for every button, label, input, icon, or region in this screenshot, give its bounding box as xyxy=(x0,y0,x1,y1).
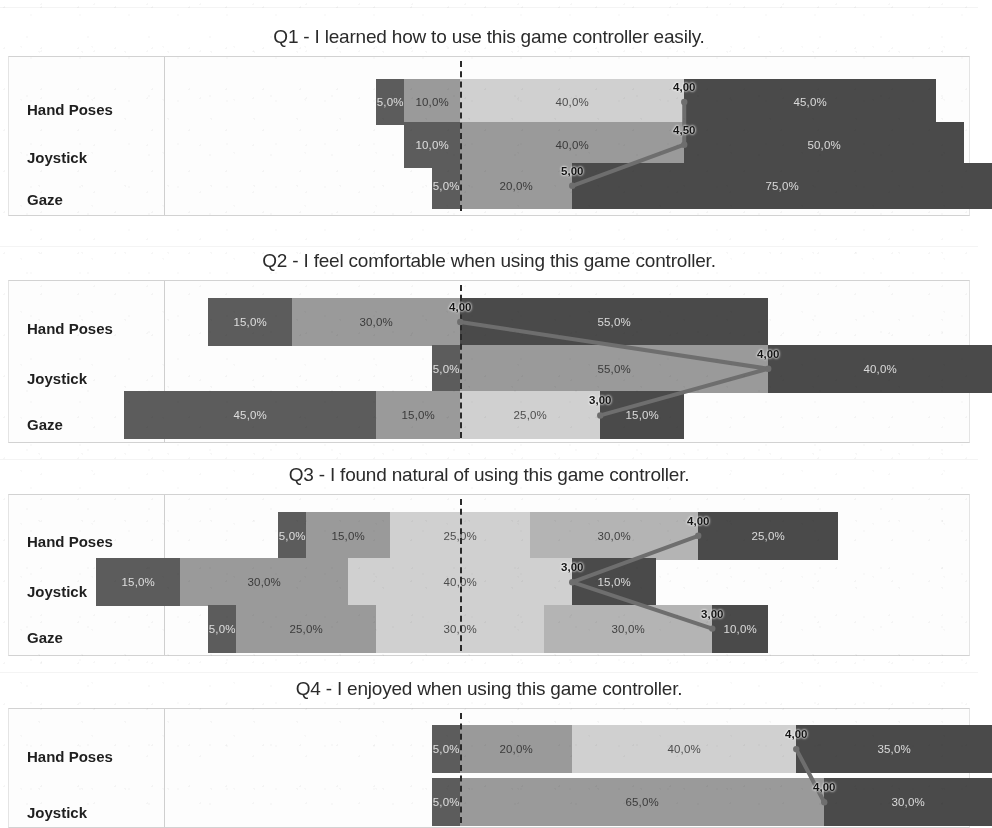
segment-percent-label: 30,0% xyxy=(359,316,393,328)
plot-area: 15,0%30,0%55,0%4,005,0%55,0%40,0%4,0045,… xyxy=(164,281,969,442)
segment-percent-label: 10,0% xyxy=(415,139,449,151)
bar-segment: 30,0% xyxy=(292,298,460,346)
median-value-label: 5,00 xyxy=(561,165,583,177)
category-label: Joystick xyxy=(27,148,87,165)
bar-row: 5,0%15,0%25,0%30,0%25,0% xyxy=(278,512,838,560)
category-label: Hand Poses xyxy=(27,533,113,550)
segment-percent-label: 25,0% xyxy=(289,623,323,635)
bar-segment: 15,0% xyxy=(376,391,460,439)
segment-percent-label: 30,0% xyxy=(611,623,645,635)
bar-segment: 55,0% xyxy=(460,345,768,393)
category-label: Hand Poses xyxy=(27,748,113,765)
bar-segment: 5,0% xyxy=(208,605,236,653)
category-label: Joystick xyxy=(27,803,87,820)
segment-percent-label: 25,0% xyxy=(513,409,547,421)
median-value-label: 4,00 xyxy=(673,81,695,93)
category-label: Gaze xyxy=(27,191,63,208)
segment-percent-label: 40,0% xyxy=(555,139,589,151)
segment-percent-label: 55,0% xyxy=(597,316,631,328)
bar-segment: 5,0% xyxy=(278,512,306,560)
bar-segment: 40,0% xyxy=(460,122,684,168)
bar-segment: 45,0% xyxy=(684,79,936,125)
bar-segment: 10,0% xyxy=(404,122,460,168)
segment-percent-label: 25,0% xyxy=(751,530,785,542)
segment-percent-label: 5,0% xyxy=(209,623,236,635)
plot-area: 5,0%15,0%25,0%30,0%25,0%4,0015,0%30,0%40… xyxy=(164,495,969,655)
segment-percent-label: 5,0% xyxy=(279,530,306,542)
scan-streak xyxy=(0,7,978,8)
median-value-label: 3,00 xyxy=(589,394,611,406)
chart-q3: Q3 - I found natural of using this game … xyxy=(0,464,978,656)
bar-segment: 55,0% xyxy=(460,298,768,346)
median-value-label: 4,00 xyxy=(757,348,779,360)
chart-title: Q4 - I enjoyed when using this game cont… xyxy=(0,678,978,700)
scan-streak xyxy=(0,459,978,460)
segment-percent-label: 30,0% xyxy=(891,796,925,808)
segment-percent-label: 15,0% xyxy=(597,576,631,588)
bar-segment: 25,0% xyxy=(236,605,376,653)
bar-segment: 50,0% xyxy=(684,122,964,168)
plot-area: 5,0%20,0%40,0%35,0%4,005,0%65,0%30,0%4,0… xyxy=(164,709,969,827)
segment-percent-label: 15,0% xyxy=(121,576,155,588)
bar-segment: 40,0% xyxy=(768,345,992,393)
category-label: Joystick xyxy=(27,583,87,600)
bar-segment: 30,0% xyxy=(530,512,698,560)
bar-segment: 25,0% xyxy=(460,391,600,439)
segment-percent-label: 5,0% xyxy=(433,743,460,755)
segment-percent-label: 20,0% xyxy=(499,743,533,755)
plot-frame: Hand Poses Joystick Gaze 5,0%15,0%25,0%3… xyxy=(8,494,970,656)
bar-segment: 5,0% xyxy=(432,163,460,209)
bar-row: 5,0%25,0%30,0%30,0%10,0% xyxy=(208,605,768,653)
category-label: Gaze xyxy=(27,629,63,646)
scan-streak xyxy=(0,246,978,247)
chart-q1: Q1 - I learned how to use this game cont… xyxy=(0,26,978,216)
category-label: Hand Poses xyxy=(27,101,113,118)
segment-percent-label: 5,0% xyxy=(377,96,404,108)
median-value-label: 4,00 xyxy=(449,301,471,313)
scan-streak xyxy=(0,672,978,673)
bar-segment: 40,0% xyxy=(460,79,684,125)
median-value-label: 4,00 xyxy=(813,781,835,793)
bar-segment: 30,0% xyxy=(824,778,992,826)
segment-percent-label: 5,0% xyxy=(433,180,460,192)
segment-percent-label: 55,0% xyxy=(597,363,631,375)
bar-segment: 20,0% xyxy=(460,163,572,209)
segment-percent-label: 40,0% xyxy=(555,96,589,108)
chart-title: Q3 - I found natural of using this game … xyxy=(0,464,978,486)
segment-percent-label: 40,0% xyxy=(667,743,701,755)
segment-percent-label: 65,0% xyxy=(625,796,659,808)
segment-percent-label: 30,0% xyxy=(247,576,281,588)
bar-segment: 15,0% xyxy=(208,298,292,346)
chart-q4: Q4 - I enjoyed when using this game cont… xyxy=(0,678,978,828)
category-label: Hand Poses xyxy=(27,319,113,336)
segment-percent-label: 30,0% xyxy=(597,530,631,542)
chart-title: Q2 - I feel comfortable when using this … xyxy=(0,250,978,272)
bar-row: 5,0%65,0%30,0% xyxy=(432,778,992,826)
bar-row: 5,0%20,0%75,0% xyxy=(432,163,992,209)
plot-area: 5,0%10,0%40,0%45,0%4,0010,0%40,0%50,0%4,… xyxy=(164,57,969,215)
segment-percent-label: 15,0% xyxy=(233,316,267,328)
bar-segment: 35,0% xyxy=(796,725,992,773)
median-value-label: 3,00 xyxy=(561,561,583,573)
plot-frame: Hand Poses Joystick Gaze 5,0%10,0%40,0%4… xyxy=(8,56,970,216)
bar-segment: 5,0% xyxy=(432,345,460,393)
segment-percent-label: 15,0% xyxy=(625,409,659,421)
bar-segment: 40,0% xyxy=(572,725,796,773)
bar-segment: 15,0% xyxy=(96,558,180,606)
bar-row: 15,0%30,0%55,0% xyxy=(208,298,768,346)
bar-segment: 45,0% xyxy=(124,391,376,439)
plot-frame: Hand Poses Joystick Gaze 15,0%30,0%55,0%… xyxy=(8,280,970,443)
segment-percent-label: 45,0% xyxy=(793,96,827,108)
segment-percent-label: 10,0% xyxy=(723,623,757,635)
bar-segment: 10,0% xyxy=(404,79,460,125)
bar-segment: 75,0% xyxy=(572,163,992,209)
segment-percent-label: 15,0% xyxy=(401,409,435,421)
segment-percent-label: 75,0% xyxy=(765,180,799,192)
segment-percent-label: 45,0% xyxy=(233,409,267,421)
bar-segment: 30,0% xyxy=(180,558,348,606)
segment-percent-label: 20,0% xyxy=(499,180,533,192)
chart-q2: Q2 - I feel comfortable when using this … xyxy=(0,250,978,443)
category-axis: Hand Poses Joystick xyxy=(9,709,165,827)
category-label: Joystick xyxy=(27,369,87,386)
